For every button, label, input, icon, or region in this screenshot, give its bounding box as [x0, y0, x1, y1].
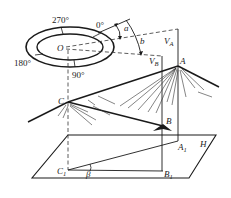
label-b: b: [140, 36, 145, 46]
hatching-c: [58, 96, 115, 125]
label-90: 90°: [72, 70, 85, 80]
label-180: 180°: [14, 58, 32, 68]
arrow-b-icon: [139, 51, 143, 56]
label-b1: B1: [164, 169, 173, 180]
label-va: VA: [164, 36, 174, 47]
label-plane-h: H: [199, 139, 207, 149]
strike-dip-diagram: 270° 0° 180° 90° O a b VA VB A C B H A1 …: [0, 0, 231, 198]
label-point-b: B: [166, 116, 172, 126]
label-vb: VB: [149, 56, 159, 67]
label-c1: C1: [57, 166, 66, 177]
label-270: 270°: [52, 15, 70, 25]
label-o: O: [57, 43, 64, 53]
label-beta: β: [85, 169, 91, 179]
dashed-lines: [66, 29, 178, 170]
plane-lines: [68, 141, 178, 171]
label-a1: A1: [177, 142, 187, 153]
triangle-abc: [28, 66, 219, 126]
arrow-a-icon: [118, 36, 122, 40]
label-point-c: C: [58, 96, 65, 106]
hatching-a: [120, 68, 212, 113]
compass-ring: [26, 27, 114, 67]
label-point-a: A: [179, 56, 186, 66]
label-0: 0°: [96, 20, 105, 30]
vertical-lines: [162, 29, 178, 171]
label-a: a: [124, 23, 129, 33]
